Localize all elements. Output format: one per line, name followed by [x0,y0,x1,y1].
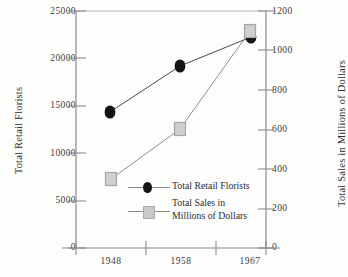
series-total-sales-line [111,31,250,179]
legend-swatch-square-icon [126,198,172,212]
legend-label-total-sales-line2: Millions of Dollars [172,210,247,221]
series-total-sales-point [245,25,256,38]
chart-figure: Total Retail Florists Total Sales in Mil… [0,0,348,277]
series-total-retail-florists-point [175,59,186,72]
chart-legend: Total Retail Florists Total Sales in Mil… [126,180,250,224]
legend-swatch-circle-icon [126,181,172,195]
legend-label-total-sales-line1: Total Sales in [172,197,225,208]
legend-item-total-retail-florists: Total Retail Florists [126,180,250,195]
legend-label-total-retail-florists: Total Retail Florists [172,180,250,193]
series-total-retail-florists-point [105,105,116,118]
series-total-sales-point [106,173,117,186]
series-total-sales-point [175,123,186,136]
series-total-retail-florists-line [110,37,251,112]
y-axis-left-ticks [68,11,86,248]
legend-item-total-sales: Total Sales in Millions of Dollars [126,197,250,222]
plot-area [0,0,348,277]
